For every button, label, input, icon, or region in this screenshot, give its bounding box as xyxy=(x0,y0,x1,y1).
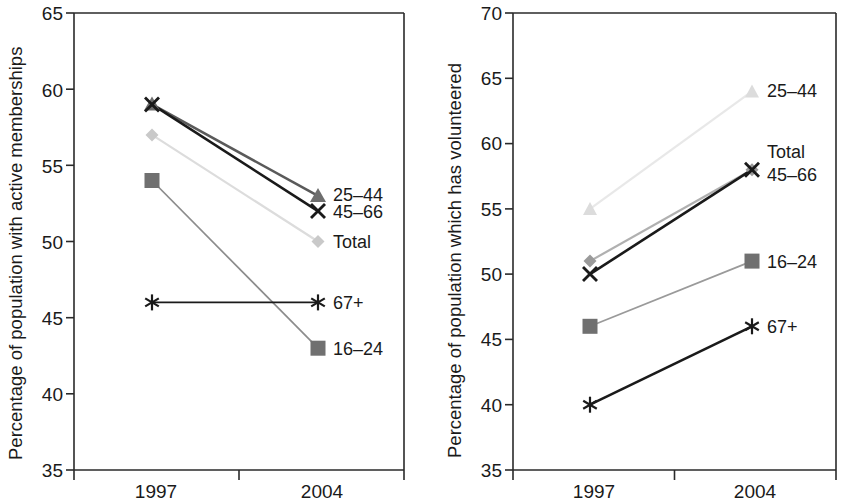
left-ytick-45: 45 xyxy=(42,308,63,329)
right-ytick-45: 45 xyxy=(481,329,502,350)
left-label-67plus: 67+ xyxy=(333,293,364,313)
left-ytick-55: 55 xyxy=(42,156,63,177)
left-ytick-60: 60 xyxy=(42,80,63,101)
right-label-16-24: 16–24 xyxy=(767,252,817,272)
left-y-tickmarks xyxy=(66,13,74,470)
left-chart-svg: Percentage of population with active mem… xyxy=(0,0,423,502)
right-series-line-25-44 xyxy=(590,91,752,208)
right-label-45-66: 45–66 xyxy=(767,165,817,185)
right-ytick-40: 40 xyxy=(481,395,502,416)
left-x-tickmarks xyxy=(74,470,404,480)
left-y-axis-title: Percentage of population with active mem… xyxy=(5,47,26,460)
right-series-line-16-24 xyxy=(590,261,752,326)
right-y-tickmarks xyxy=(505,13,513,470)
right-series-line-total xyxy=(590,170,752,261)
right-ytick-35: 35 xyxy=(481,460,502,481)
left-label-45-66: 45–66 xyxy=(333,202,383,222)
right-ytick-55: 55 xyxy=(481,199,502,220)
left-ytick-40: 40 xyxy=(42,384,63,405)
right-label-67plus: 67+ xyxy=(767,317,798,337)
right-x-tickmarks xyxy=(513,470,836,480)
right-chart-svg: Percentage of population which has volun… xyxy=(423,0,846,502)
left-label-16-24: 16–24 xyxy=(333,339,383,359)
left-ytick-50: 50 xyxy=(42,232,63,253)
right-series-line-45-66 xyxy=(590,170,752,274)
left-series-line-45-66 xyxy=(152,104,318,211)
left-ytick-35: 35 xyxy=(42,460,63,481)
right-xtick-2004: 2004 xyxy=(734,481,777,502)
right-chart-panel: Percentage of population which has volun… xyxy=(423,0,846,502)
left-ytick-65: 65 xyxy=(42,3,63,24)
right-series-line-67plus xyxy=(590,326,752,404)
left-xtick-1997: 1997 xyxy=(135,481,177,502)
right-ytick-70: 70 xyxy=(481,3,502,24)
right-ytick-50: 50 xyxy=(481,264,502,285)
right-ytick-60: 60 xyxy=(481,133,502,154)
right-xtick-1997: 1997 xyxy=(573,481,615,502)
right-ytick-65: 65 xyxy=(481,68,502,89)
left-label-total: Total xyxy=(333,232,371,252)
two-panel-line-chart-figure: Percentage of population with active mem… xyxy=(0,0,846,502)
left-xtick-2004: 2004 xyxy=(301,481,344,502)
right-y-axis-title: Percentage of population which has volun… xyxy=(444,63,465,458)
left-chart-panel: Percentage of population with active mem… xyxy=(0,0,423,502)
left-series-line-16-24 xyxy=(152,181,318,349)
right-label-25-44: 25–44 xyxy=(767,81,817,101)
right-label-total: Total xyxy=(767,142,805,162)
